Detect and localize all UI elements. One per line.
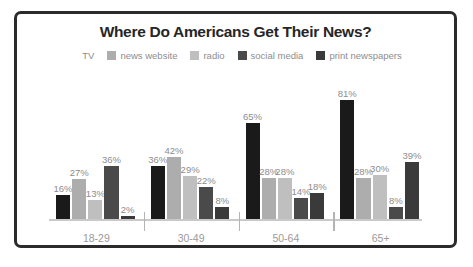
bar-value-label: 22% [197, 175, 216, 186]
bar-slot: 13% [88, 72, 102, 219]
bar-slot: 39% [405, 72, 419, 219]
bar-social-media-65+ [389, 207, 403, 219]
legend-swatch-radio [190, 51, 199, 60]
bar-slot: 16% [56, 72, 70, 219]
bar-slot: 8% [215, 72, 229, 219]
x-axis-line [49, 219, 422, 221]
bar-slot: 27% [72, 72, 86, 219]
bar-value-label: 30% [370, 163, 389, 174]
chart-legend: TV news website radio social media print… [17, 50, 454, 61]
legend-label-print-newspapers: print newspapers [329, 50, 401, 61]
x-axis-category-labels: 18-2930-4950-6465+ [29, 232, 444, 250]
legend-swatch-social-media [238, 51, 247, 60]
bar-news-website-18-29 [72, 179, 86, 219]
bar-slot: 81% [340, 72, 354, 219]
bar-radio-30-49 [183, 176, 197, 219]
bar-news-website-30-49 [167, 157, 181, 219]
bar-slot: 22% [199, 72, 213, 219]
legend-label-radio: radio [203, 50, 224, 61]
bar-slot: 8% [389, 72, 403, 219]
legend-label-social-media: social media [251, 50, 304, 61]
x-axis-tick [144, 212, 146, 231]
bar-value-label: 42% [164, 145, 183, 156]
bar-TV-18-29 [56, 195, 70, 219]
legend-swatch-tv [69, 51, 78, 60]
legend-item-news-website: news website [107, 50, 177, 61]
bar-news-website-65+ [356, 178, 370, 219]
bar-slot: 65% [246, 72, 260, 219]
legend-swatch-print-newspapers [316, 51, 325, 60]
bar-TV-65+ [340, 100, 354, 219]
bar-radio-65+ [373, 175, 387, 219]
legend-item-tv: TV [69, 50, 94, 61]
bar-slot: 29% [183, 72, 197, 219]
x-axis-tick [333, 212, 335, 231]
bar-print-newspapers-50-64 [310, 193, 324, 219]
bar-value-label: 81% [338, 88, 357, 99]
bar-value-label: 13% [86, 188, 105, 199]
bar-value-label: 8% [389, 195, 403, 206]
x-axis-label-50-64: 50-64 [239, 232, 334, 244]
bar-value-label: 28% [275, 166, 294, 177]
x-axis-label-65+: 65+ [333, 232, 428, 244]
bar-value-label: 18% [308, 181, 327, 192]
bar-value-label: 8% [216, 195, 230, 206]
bar-social-media-30-49 [199, 187, 213, 219]
bar-slot: 36% [104, 72, 118, 219]
bar-value-label: 65% [243, 111, 262, 122]
bar-value-label: 2% [121, 204, 135, 215]
legend-label-tv: TV [82, 50, 94, 61]
legend-swatch-news-website [107, 51, 116, 60]
chart-title: Where Do Americans Get Their News? [17, 23, 454, 41]
bar-slot: 30% [373, 72, 387, 219]
bar-social-media-50-64 [294, 198, 308, 219]
bar-radio-50-64 [278, 178, 292, 219]
bar-print-newspapers-65+ [405, 162, 419, 219]
bar-slot: 28% [278, 72, 292, 219]
bar-slot: 36% [151, 72, 165, 219]
bar-slot: 18% [310, 72, 324, 219]
chart-container: Where Do Americans Get Their News? TV ne… [14, 11, 457, 248]
bar-TV-30-49 [151, 166, 165, 219]
bar-slot: 42% [167, 72, 181, 219]
bars-area: 16%27%13%36%2%36%42%29%22%8%65%28%28%14%… [29, 72, 444, 219]
legend-item-radio: radio [190, 50, 224, 61]
legend-item-print-newspapers: print newspapers [316, 50, 401, 61]
legend-item-social-media: social media [238, 50, 304, 61]
bar-slot: 28% [356, 72, 370, 219]
bar-slot: 2% [121, 72, 135, 219]
x-axis-tick [239, 212, 241, 231]
bar-radio-18-29 [88, 200, 102, 219]
bar-news-website-50-64 [262, 178, 276, 219]
bar-TV-50-64 [246, 123, 260, 219]
bar-value-label: 36% [102, 154, 121, 165]
legend-label-news-website: news website [120, 50, 177, 61]
bar-value-label: 27% [70, 167, 89, 178]
bar-slot: 28% [262, 72, 276, 219]
plot-region: 16%27%13%36%2%36%42%29%22%8%65%28%28%14%… [29, 72, 444, 235]
bar-value-label: 16% [54, 183, 73, 194]
bar-value-label: 39% [402, 150, 421, 161]
bar-print-newspapers-30-49 [215, 207, 229, 219]
bar-social-media-18-29 [104, 166, 118, 219]
x-axis-label-18-29: 18-29 [49, 232, 144, 244]
x-axis-label-30-49: 30-49 [144, 232, 239, 244]
bar-slot: 14% [294, 72, 308, 219]
